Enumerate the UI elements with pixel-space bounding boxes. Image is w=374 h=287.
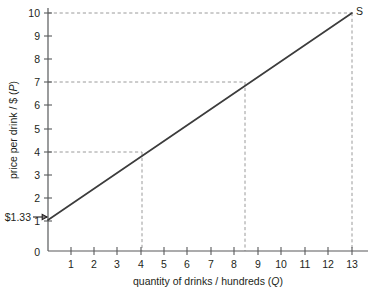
x-tick-label-13: 13 bbox=[346, 258, 358, 270]
x-axis-title: quantity of drinks / hundreds (Q) bbox=[133, 275, 283, 287]
x-axis-tick-labels: 1 2 3 4 5 6 7 8 9 10 11 12 13 bbox=[68, 258, 358, 270]
x-tick-label-8: 8 bbox=[231, 258, 237, 270]
x-axis-title-variable: Q bbox=[271, 275, 279, 287]
chart-canvas: 10 9 8 7 6 5 4 3 2 1 0 bbox=[0, 0, 374, 287]
y-tick-label-3: 3 bbox=[34, 169, 40, 181]
y-tick-label-5: 5 bbox=[34, 123, 40, 135]
x-tick-label-2: 2 bbox=[91, 258, 97, 270]
x-tick-label-5: 5 bbox=[161, 258, 167, 270]
y-tick-label-8: 8 bbox=[34, 53, 40, 65]
y-tick-label-9: 9 bbox=[34, 30, 40, 42]
quantity-guide-lines bbox=[142, 13, 352, 251]
y-tick-label-4: 4 bbox=[34, 146, 40, 158]
y-axis-title-variable: P bbox=[7, 84, 19, 91]
supply-curve-line bbox=[48, 13, 352, 220]
intercept-annotation-label: $1.33 bbox=[5, 211, 31, 223]
x-tick-label-10: 10 bbox=[275, 258, 287, 270]
y-axis-title: price per drink / $ (P) bbox=[7, 81, 19, 179]
supply-curve-chart: 10 9 8 7 6 5 4 3 2 1 0 bbox=[0, 0, 374, 287]
x-tick-label-9: 9 bbox=[255, 258, 261, 270]
y-tick-label-7: 7 bbox=[34, 76, 40, 88]
x-tick-label-6: 6 bbox=[184, 258, 190, 270]
x-tick-label-4: 4 bbox=[138, 258, 144, 270]
x-axis-title-close: ) bbox=[280, 275, 284, 287]
y-axis-title-close: ) bbox=[7, 81, 19, 85]
supply-curve-label: S bbox=[356, 5, 363, 17]
x-tick-label-3: 3 bbox=[114, 258, 120, 270]
y-tick-label-10: 10 bbox=[28, 7, 40, 19]
x-tick-label-1: 1 bbox=[68, 258, 74, 270]
y-tick-label-0: 0 bbox=[34, 246, 40, 258]
x-tick-label-7: 7 bbox=[208, 258, 214, 270]
y-tick-label-2: 2 bbox=[34, 192, 40, 204]
x-axis-title-main: quantity of drinks / hundreds ( bbox=[133, 275, 272, 287]
x-tick-label-11: 11 bbox=[300, 258, 311, 270]
price-guide-lines bbox=[48, 13, 352, 152]
y-tick-label-6: 6 bbox=[34, 99, 40, 111]
y-axis-title-main: price per drink / $ ( bbox=[7, 91, 19, 179]
x-tick-label-12: 12 bbox=[322, 258, 334, 270]
